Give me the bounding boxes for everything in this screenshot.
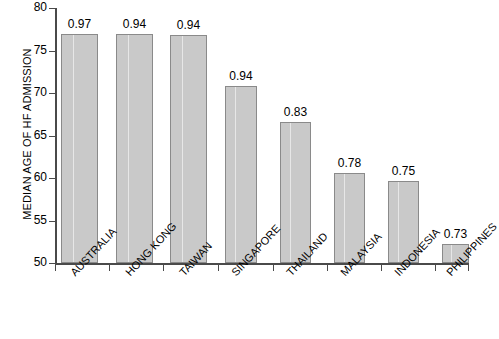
- y-tick-label-65: 65: [7, 130, 47, 140]
- bar-value-label-5: 0.78: [328, 156, 371, 170]
- y-tick-label-70: 70: [7, 87, 47, 97]
- bar-value-label-2: 0.94: [164, 18, 213, 32]
- bar-value-label-1: 0.94: [110, 17, 159, 31]
- y-tick-label-80: 80: [7, 2, 47, 12]
- y-tick-label-50: 50: [7, 257, 47, 267]
- bar-value-label-4: 0.83: [274, 105, 317, 119]
- y-tick-label-60: 60: [7, 172, 47, 182]
- x-axis-category-labels: AUSTRALIAHONG KONGTAIWANSINGAPORETHAILAN…: [55, 266, 469, 339]
- bar-singapore[interactable]: [225, 86, 257, 263]
- bar-value-label-0: 0.97: [55, 17, 104, 31]
- plot-area: 50556065707580 0.970.940.940.940.830.780…: [55, 8, 469, 263]
- bar-hong-kong[interactable]: [116, 34, 153, 263]
- y-tick-label-75: 75: [7, 45, 47, 55]
- bar-value-label-6: 0.75: [382, 164, 425, 178]
- bar-thailand[interactable]: [280, 122, 311, 263]
- bar-value-label-3: 0.94: [219, 69, 263, 83]
- bar-series: 0.970.940.940.940.830.780.750.73: [55, 8, 469, 263]
- bar-value-label-7: 0.73: [436, 227, 475, 241]
- y-tick-label-55: 55: [7, 215, 47, 225]
- bar-australia[interactable]: [61, 34, 98, 263]
